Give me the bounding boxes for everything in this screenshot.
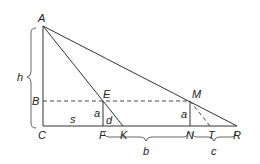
brace-b: [104, 132, 188, 141]
brace-h: [27, 28, 36, 128]
label-c: c: [211, 145, 217, 157]
label-b: b: [143, 145, 149, 157]
geometry-diagram: A B C E F K M N T R h s a d a b c: [0, 0, 260, 164]
label-point-A: A: [37, 12, 45, 24]
label-a-left: a: [94, 107, 100, 119]
label-point-B: B: [32, 95, 39, 107]
label-a-right: a: [181, 108, 187, 120]
label-s: s: [70, 113, 76, 125]
label-point-M: M: [192, 88, 202, 100]
label-d: d: [106, 114, 113, 126]
label-point-F: F: [99, 129, 107, 141]
label-point-R: R: [233, 129, 241, 141]
dashed-segment-MT: [190, 101, 210, 126]
label-point-E: E: [103, 88, 111, 100]
label-point-C: C: [38, 129, 46, 141]
segment-AR: [43, 26, 237, 126]
label-point-N: N: [186, 129, 194, 141]
label-h: h: [17, 71, 23, 83]
segment-AK: [43, 26, 123, 126]
label-point-K: K: [120, 129, 128, 141]
